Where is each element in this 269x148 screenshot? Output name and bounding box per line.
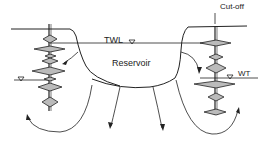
wt-label: WT xyxy=(238,69,250,78)
seepage-arrow-right-upper xyxy=(181,52,199,71)
reservoir-seepage-diagram: TWL Reservoir WT Cut-off xyxy=(0,0,269,148)
twl-label: TWL xyxy=(104,35,123,45)
diagram-drawing xyxy=(0,0,269,148)
seepage-arrow-right-lower xyxy=(176,80,238,134)
twl-level-marker-icon xyxy=(129,40,135,44)
seepage-arrow-center-right xyxy=(153,87,162,128)
reservoir-label: Reservoir xyxy=(112,58,151,68)
cutoff-label: Cut-off xyxy=(220,2,244,11)
left-grout-curtain xyxy=(32,24,65,111)
seepage-arrow-left-lower xyxy=(28,85,92,132)
seepage-arrow-center-left xyxy=(111,87,120,126)
